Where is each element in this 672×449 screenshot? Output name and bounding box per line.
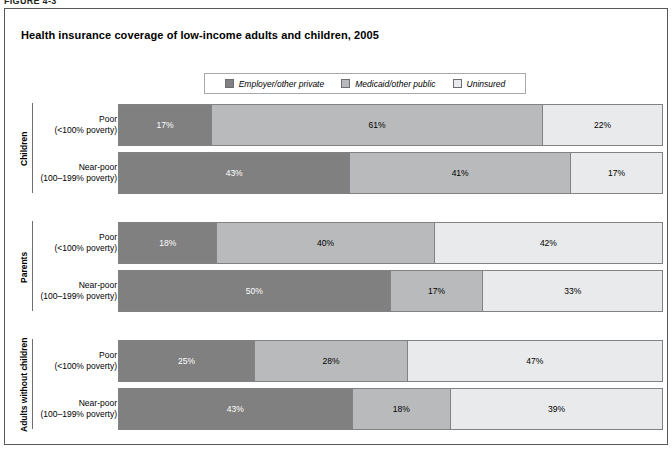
bar-segment: 42% [434, 223, 662, 263]
legend-item: Employer/other private [225, 79, 325, 89]
bar-segment-value: 25% [178, 356, 195, 366]
bar-segment-value: 42% [540, 238, 557, 248]
bar-segment: 50% [119, 271, 390, 311]
bar-segment: 17% [119, 105, 211, 145]
bar-segment-value: 18% [159, 238, 176, 248]
figure-label: FIGURE 4-3 [4, 0, 57, 5]
figure-frame: Health insurance coverage of low-income … [4, 8, 668, 445]
bar-segment: 47% [407, 341, 662, 381]
stacked-bar: 43%18%39% [118, 388, 663, 430]
chart-row: Near-poor(100–199% poverty)43%41%17% [5, 149, 672, 197]
bar-segment: 40% [216, 223, 433, 263]
stacked-bar: 43%41%17% [118, 152, 663, 194]
bar-segment: 17% [570, 153, 662, 193]
stacked-bar: 18%40%42% [118, 222, 663, 264]
chart-row: Near-poor(100–199% poverty)43%18%39% [5, 385, 672, 433]
bar-segment-value: 47% [526, 356, 543, 366]
stacked-bar: 25%28%47% [118, 340, 663, 382]
row-label-line2: (100–199% poverty) [40, 409, 117, 420]
row-label-line1: Poor [54, 232, 117, 243]
legend-label: Medicaid/other public [355, 79, 435, 89]
row-label-line2: (<100% poverty) [54, 125, 117, 136]
bar-segment-value: 17% [608, 168, 625, 178]
row-label-line1: Near-poor [40, 162, 117, 173]
bar-segment: 17% [390, 271, 483, 311]
legend-swatch-icon [225, 79, 234, 88]
stacked-bar: 17%61%22% [118, 104, 663, 146]
bar-segment: 25% [119, 341, 254, 381]
bar-segment-value: 39% [548, 404, 565, 414]
chart-row: Poor(<100% poverty)17%61%22% [5, 101, 672, 149]
bar-segment-value: 40% [317, 238, 334, 248]
bar-segment: 18% [119, 223, 216, 263]
bar-segment-value: 41% [452, 168, 469, 178]
bar-segment: 39% [450, 389, 662, 429]
row-label-line2: (100–199% poverty) [40, 173, 117, 184]
row-label-line1: Poor [54, 350, 117, 361]
bar-segment: 22% [542, 105, 662, 145]
bar-segment: 28% [254, 341, 406, 381]
bar-segment: 61% [211, 105, 542, 145]
row-label: Poor(<100% poverty) [54, 350, 117, 372]
chart-row: Near-poor(100–199% poverty)50%17%33% [5, 267, 672, 315]
bar-segment-value: 43% [227, 404, 244, 414]
chart-group: Adults without childrenPoor(<100% povert… [5, 337, 672, 433]
stacked-bar: 50%17%33% [118, 270, 663, 312]
row-label: Near-poor(100–199% poverty) [40, 162, 117, 184]
bar-segment-value: 17% [156, 120, 173, 130]
bar-segment-value: 18% [393, 404, 410, 414]
row-label-line2: (<100% poverty) [54, 361, 117, 372]
row-label-line2: (<100% poverty) [54, 243, 117, 254]
row-label-line1: Near-poor [40, 398, 117, 409]
row-label-line1: Near-poor [40, 280, 117, 291]
legend-swatch-icon [453, 79, 462, 88]
legend-swatch-icon [341, 79, 350, 88]
chart-row: Poor(<100% poverty)25%28%47% [5, 337, 672, 385]
chart-title: Health insurance coverage of low-income … [21, 29, 379, 41]
bar-segment: 43% [119, 153, 349, 193]
bar-segment: 43% [119, 389, 352, 429]
bar-segment: 18% [352, 389, 450, 429]
row-label: Poor(<100% poverty) [54, 232, 117, 254]
row-label-line2: (100–199% poverty) [40, 291, 117, 302]
chart-group: ChildrenPoor(<100% poverty)17%61%22%Near… [5, 101, 672, 197]
bar-segment: 33% [482, 271, 662, 311]
row-label: Near-poor(100–199% poverty) [40, 398, 117, 420]
row-label: Poor(<100% poverty) [54, 114, 117, 136]
bar-segment-value: 50% [246, 286, 263, 296]
chart-group: ParentsPoor(<100% poverty)18%40%42%Near-… [5, 219, 672, 315]
bar-segment-value: 43% [226, 168, 243, 178]
bar-segment-value: 61% [368, 120, 385, 130]
row-label: Near-poor(100–199% poverty) [40, 280, 117, 302]
bar-segment-value: 33% [564, 286, 581, 296]
bar-segment-value: 22% [594, 120, 611, 130]
row-label-line1: Poor [54, 114, 117, 125]
legend-item: Uninsured [453, 79, 506, 89]
bar-segment-value: 17% [428, 286, 445, 296]
legend-label: Uninsured [467, 79, 506, 89]
bar-segment-value: 28% [322, 356, 339, 366]
chart-legend: Employer/other privateMedicaid/other pub… [204, 73, 526, 94]
legend-item: Medicaid/other public [341, 79, 435, 89]
chart-row: Poor(<100% poverty)18%40%42% [5, 219, 672, 267]
bar-segment: 41% [349, 153, 570, 193]
chart-plot-area: ChildrenPoor(<100% poverty)17%61%22%Near… [5, 101, 672, 449]
legend-label: Employer/other private [239, 79, 325, 89]
